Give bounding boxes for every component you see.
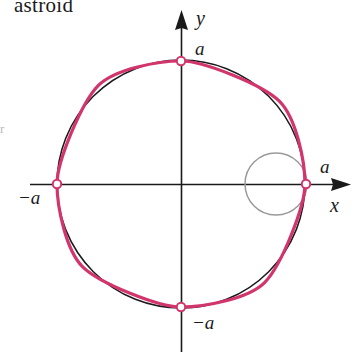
- astroid-plot: [0, 0, 364, 362]
- y-axis-arrowhead: [175, 10, 188, 30]
- cusp-left: [53, 180, 61, 188]
- astroid-figure: astroid r y x a a −a −a: [0, 0, 364, 362]
- cusp-right: [302, 180, 310, 188]
- cusp-bottom: [177, 303, 185, 311]
- cusp-top: [177, 57, 185, 65]
- x-axis-arrowhead: [331, 178, 351, 191]
